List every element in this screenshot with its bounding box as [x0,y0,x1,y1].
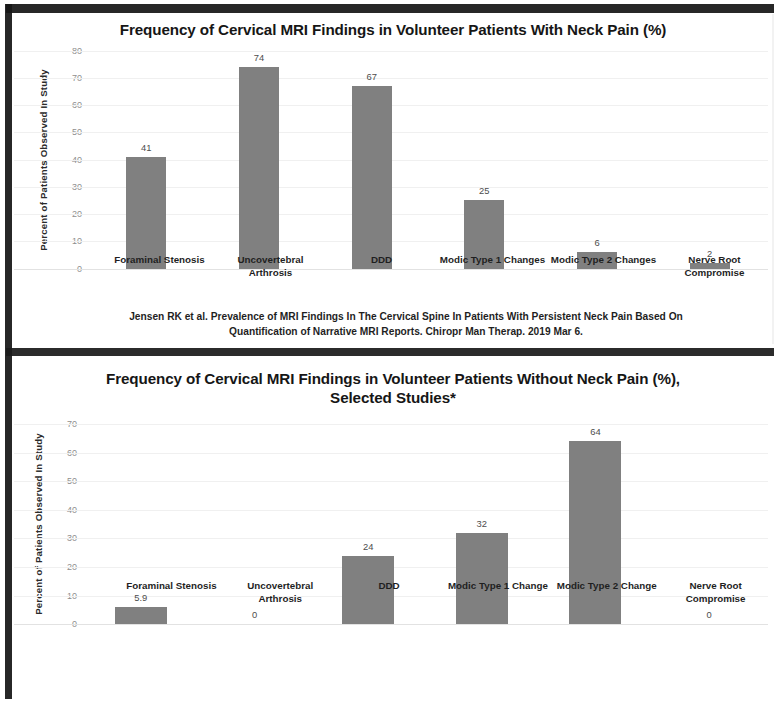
bar-value-label: 25 [479,185,489,196]
x-axis-category-label: DDD [326,254,437,267]
chart-panel-with-neck-pain: Frequency of Cervical MRI Findings in Vo… [14,14,772,346]
x-axis-category-label: Foraminal Stenosis [117,580,226,593]
x-axis-categories-top: Foraminal StenosisUncovertebral Arthrosi… [104,254,770,288]
bar-slot: 41 [90,51,203,269]
bar-value-label: 32 [477,518,487,529]
panel-divider [6,348,774,356]
chart-citation-top: Jensen RK et al. Prevalence of MRI Findi… [110,309,702,340]
bar-value-label: 24 [363,541,373,552]
bar-slot: 2 [653,51,766,269]
x-axis-category-label: Modic Type 2 Change [552,580,661,593]
bar-value-label: 64 [590,426,600,437]
axis-baseline [14,624,768,625]
bar-value-label: 41 [141,142,151,153]
scanned-page: Frequency of Cervical MRI Findings in Vo… [0,0,774,703]
bar-slot: 74 [203,51,316,269]
bar-value-label: 67 [366,71,376,82]
x-axis-category-label: Modic Type 1 Changes [437,254,548,267]
x-axis-category-label: Uncovertebral Arthrosis [215,254,326,279]
plot-area-top: Percent of Patients Observed In Study 01… [14,51,768,269]
x-axis-category-label: Modic Type 1 Change [444,580,553,593]
bar-value-label: 74 [254,52,264,63]
bar-group-top: 4174672562 [90,51,766,269]
bar [126,157,166,269]
x-axis-categories-bottom: Foraminal StenosisUncovertebral Arthrosi… [117,580,770,614]
chart-panel-without-neck-pain: Frequency of Cervical MRI Findings in Vo… [14,358,772,696]
page-border-top [6,4,774,13]
bar-slot: 67 [315,51,428,269]
x-axis-category-label: Nerve Root Compromise [661,580,770,605]
x-axis-category-label: Nerve Root Compromise [659,254,770,279]
x-axis-category-label: Uncovertebral Arthrosis [226,580,335,605]
bar [239,67,279,269]
bar-slot: 6 [541,51,654,269]
bar [352,86,392,269]
chart-title-top: Frequency of Cervical MRI Findings in Vo… [14,14,772,40]
bar-value-label: 6 [594,237,599,248]
chart-title-bottom: Frequency of Cervical MRI Findings in Vo… [14,358,772,407]
x-axis-category-label: Foraminal Stenosis [104,254,215,267]
x-axis-category-label: DDD [335,580,444,593]
bar-slot: 25 [428,51,541,269]
x-axis-category-label: Modic Type 2 Changes [548,254,659,267]
